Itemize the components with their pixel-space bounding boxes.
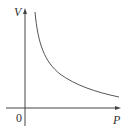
y-axis-arrow-icon — [23, 8, 27, 14]
y-axis-label: V — [14, 5, 23, 19]
origin-label: 0 — [16, 111, 22, 125]
x-axis-arrow-icon — [115, 106, 121, 110]
x-axis-label: P — [112, 113, 121, 127]
chart: V P 0 — [0, 0, 128, 129]
hyperbola-curve — [35, 12, 119, 97]
